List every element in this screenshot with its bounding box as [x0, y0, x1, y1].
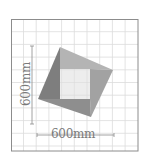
diagram-canvas: 600mm 600mm	[0, 0, 142, 161]
horizontal-dimension-label: 600mm	[51, 128, 95, 140]
square-face-right	[90, 69, 113, 117]
inner-light-square	[60, 69, 90, 99]
vertical-dimension-label: 600mm	[20, 62, 32, 106]
square-face-top	[60, 47, 113, 70]
